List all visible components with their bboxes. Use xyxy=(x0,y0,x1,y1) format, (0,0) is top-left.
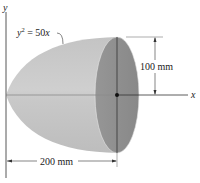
eq-rhs-var: x xyxy=(44,27,50,38)
length-dimension-label: 200 mm xyxy=(40,156,73,167)
y-axis-label: y xyxy=(2,2,8,13)
radius-arrow-top xyxy=(154,37,157,42)
length-arrow-left xyxy=(7,160,12,163)
eq-rhs: = 50 xyxy=(25,27,46,38)
x-axis-label: x xyxy=(190,89,196,100)
center-point xyxy=(115,93,119,97)
curve-equation: y2 = 50x xyxy=(16,26,50,38)
paraboloid-figure: y x y2 = 50x 100 mm 200 mm xyxy=(0,0,200,183)
length-arrow-right xyxy=(112,160,117,163)
equation-leader xyxy=(57,33,63,44)
radius-arrow-bottom xyxy=(154,90,157,95)
radius-dimension-label: 100 mm xyxy=(140,61,173,72)
